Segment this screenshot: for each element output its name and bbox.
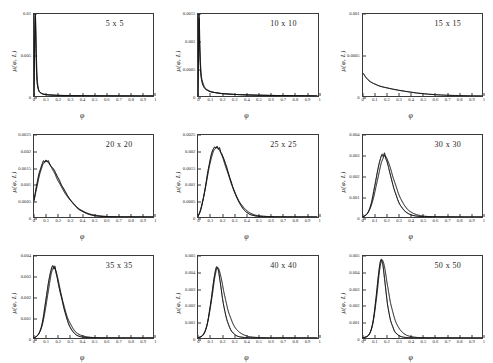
y-axis-label: μ(φ, L) [339,171,347,192]
x-tick-mark [155,93,156,96]
x-tick-label: 0.5 [420,217,426,224]
x-tick-label: 0.3 [68,96,74,103]
panel-inner: μ(φ, L)00.0010.0020.0030.00400.10.20.30.… [0,242,164,363]
x-tick-label: 0.3 [396,338,402,345]
series-curve [34,161,153,217]
x-tick-label: 0.9 [469,96,475,103]
x-tick-label: 0.1 [372,96,378,103]
y-tick-label: 0.001 [349,12,362,17]
x-tick-mark [319,335,320,338]
x-tick-label: 0.8 [293,96,299,103]
plot-area: 00.0050.0100.10.20.30.40.50.60.70.80.91 [33,13,154,97]
series-curve-noise [363,155,482,217]
x-tick-mark [155,335,156,338]
x-tick-label: 1 [154,338,156,345]
plot-area: 00.0010.0020.0030.0040.00500.10.20.30.40… [362,255,483,339]
plot-panel: μ(φ, L)00.0010.0020.0030.00400.10.20.30.… [0,242,164,363]
y-tick-label: 0.0005 [347,54,363,59]
data-curves [34,135,153,217]
x-tick-label: 0.8 [128,338,134,345]
panel-title: 15 x 15 [434,19,461,28]
x-tick-label: 0.1 [208,96,214,103]
x-tick-label: 0.5 [92,96,98,103]
y-axis-label: μ(φ, L) [10,292,18,313]
x-tick-label: 0.3 [396,96,402,103]
x-tick-label: 0 [197,338,199,345]
y-tick-label: 0.0005 [183,68,199,73]
y-tick-label: 0.001 [349,196,362,201]
x-tick-label: 1 [154,217,156,224]
x-tick-label: 0.7 [445,338,451,345]
x-tick-label: 0.3 [232,96,238,103]
figure-panel-grid: μ(φ, L)00.0050.0100.10.20.30.40.50.60.70… [0,0,493,363]
y-tick-label: 0.002 [349,304,362,309]
x-axis-label: φ [0,353,164,362]
plot-area: 00.00050.0010.001500.10.20.30.40.50.60.7… [197,13,318,97]
plot-panel: μ(φ, L)00.00050.0010.001500.10.20.30.40.… [164,0,328,121]
x-tick-mark [319,93,320,96]
x-tick-label: 1 [483,217,485,224]
x-tick-label: 0.5 [256,96,262,103]
panel-title: 5 x 5 [106,19,124,28]
x-tick-label: 0.1 [208,217,214,224]
plot-panel: μ(φ, L)00.00050.00100.10.20.30.40.50.60.… [329,0,493,121]
x-tick-label: 0 [33,338,35,345]
data-curves [34,256,153,338]
plot-panel: μ(φ, L)00.0010.0020.0030.00400.10.20.30.… [329,121,493,242]
y-tick-label: 0.002 [21,150,34,155]
x-axis-label: φ [329,111,493,120]
panel-inner: μ(φ, L)00.0010.0020.0030.0040.00500.10.2… [164,242,328,363]
series-curve [198,18,317,96]
x-axis-label: φ [164,111,328,120]
x-axis-label: φ [0,232,164,241]
x-tick-label: 0.4 [408,338,414,345]
x-tick-label: 0.6 [433,217,439,224]
y-tick-label: 0.001 [185,183,198,188]
panel-inner: μ(φ, L)00.0010.0020.0030.0040.00500.10.2… [329,242,493,363]
series-curve-noise [198,267,317,338]
x-tick-label: 0.9 [469,217,475,224]
x-axis-label: φ [329,232,493,241]
x-tick-label: 0.9 [140,96,146,103]
x-tick-label: 0.6 [268,338,274,345]
y-axis-label: μ(φ, L) [10,50,18,71]
x-tick-label: 0.5 [256,217,262,224]
x-tick-label: 0.7 [280,96,286,103]
x-tick-label: 0.2 [384,96,390,103]
series-curve [198,146,317,217]
y-tick-label: 0.0015 [183,166,199,171]
y-tick-label: 0.004 [349,271,362,276]
series-curve [34,266,153,338]
plot-area: 00.0010.0020.0030.00400.10.20.30.40.50.6… [33,255,154,339]
x-tick-label: 0.1 [372,217,378,224]
series-curve-noise [34,14,153,96]
data-curves [363,135,482,217]
y-tick-label: 0.005 [21,54,34,59]
x-tick-label: 0.3 [396,217,402,224]
series-curve [34,16,153,96]
data-curves [198,135,317,217]
x-tick-label: 0 [33,96,35,103]
panel-inner: μ(φ, L)00.0050.0100.10.20.30.40.50.60.70… [0,0,164,121]
y-tick-label: 0.001 [185,40,198,45]
data-curves [198,256,317,338]
y-tick-label: 0.005 [349,254,362,259]
x-tick-label: 1 [319,338,321,345]
x-tick-label: 0.9 [469,338,475,345]
x-tick-mark [155,214,156,217]
panel-title: 25 x 25 [270,140,297,149]
y-tick-label: 0.0005 [183,200,199,205]
panel-inner: μ(φ, L)00.00050.00100.10.20.30.40.50.60.… [329,0,493,121]
plot-area: 00.00050.00100.10.20.30.40.50.60.70.80.9… [362,13,483,97]
y-tick-label: 0.001 [185,321,198,326]
panel-inner: μ(φ, L)00.00050.0010.00150.0020.002500.1… [164,121,328,242]
y-tick-label: 0.004 [349,133,362,138]
series-curve-noise [363,260,482,338]
x-tick-label: 0.3 [232,217,238,224]
plot-panel: μ(φ, L)00.0050.0100.10.20.30.40.50.60.70… [0,0,164,121]
panel-title: 35 x 35 [106,261,133,270]
series-curve-noise [198,19,317,96]
x-tick-label: 0.1 [372,338,378,345]
x-tick-label: 0.5 [256,338,262,345]
x-tick-label: 0.3 [68,338,74,345]
